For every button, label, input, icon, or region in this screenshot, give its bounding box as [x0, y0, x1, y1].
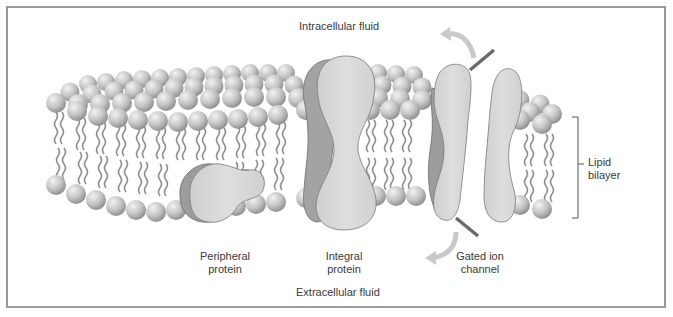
- peripheral-line2: protein: [196, 263, 254, 276]
- gated-line2: channel: [452, 263, 508, 276]
- gate-open-arrow-icon: [440, 27, 474, 58]
- integral-line1: Integral: [322, 250, 366, 263]
- gated-line1: Gated ion: [452, 250, 508, 263]
- integral-protein: [303, 56, 376, 230]
- peripheral-protein-label: Peripheral protein: [196, 250, 254, 276]
- gate-bar-bottom: [456, 218, 478, 236]
- gated-ion-channel: [428, 50, 521, 236]
- gated-ion-channel-label: Gated ion channel: [452, 250, 508, 276]
- lipid-bilayer-label: Lipid bilayer: [588, 156, 620, 182]
- integral-line2: protein: [322, 263, 366, 276]
- intracellular-fluid-label: Intracellular fluid: [299, 20, 379, 33]
- peripheral-line1: Peripheral: [196, 250, 254, 263]
- lipid-line2: bilayer: [588, 169, 620, 182]
- peripheral-protein: [180, 164, 265, 222]
- integral-protein-label: Integral protein: [322, 250, 366, 276]
- lipid-bilayer-bracket-icon: [572, 117, 584, 218]
- lipid-line1: Lipid: [588, 156, 620, 169]
- extracellular-fluid-label: Extracellular fluid: [296, 286, 380, 299]
